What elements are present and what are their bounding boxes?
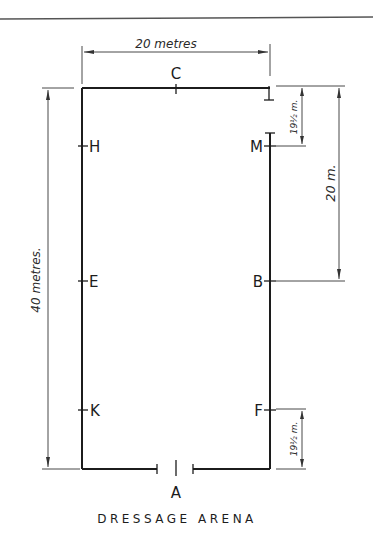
dimension-lines [42,44,345,469]
marker-k: K [90,402,101,420]
dressage-arena-diagram: C A H E K M B F 20 metres 40 metres. 20 … [0,0,373,559]
marker-a: A [171,484,182,502]
marker-f: F [254,402,263,420]
marker-c: C [171,65,181,83]
length-label: 40 metres. [29,247,43,312]
diagram-title: DRESSAGE ARENA [97,512,257,526]
marker-e: E [89,273,98,291]
corner-top-label: 19½ m. [289,100,299,135]
arena-ticks [78,84,276,476]
arena-outline [82,88,270,469]
marker-m: M [250,138,263,156]
page-rule [0,17,373,19]
marker-b: B [253,273,263,291]
half-length-label: 20 m. [323,164,338,201]
marker-h: H [89,138,100,156]
corner-bottom-label: 19½ m. [289,422,299,457]
width-label: 20 metres [135,37,196,51]
